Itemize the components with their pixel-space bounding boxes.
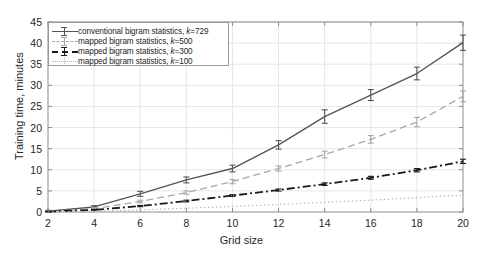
y-tick-label: 5 — [14, 185, 42, 197]
legend: conventional bigram statistics, k=729map… — [48, 22, 229, 66]
y-tick-label: 15 — [14, 143, 42, 155]
y-tick-label: 30 — [14, 79, 42, 91]
legend-line — [52, 31, 78, 32]
y-tick-label: 0 — [14, 206, 42, 218]
x-tick-label: 16 — [365, 217, 377, 229]
legend-label: conventional bigram statistics, k=729 — [78, 27, 208, 36]
legend-error-cap — [61, 27, 67, 28]
legend-line — [52, 51, 78, 53]
legend-line-sample — [52, 56, 78, 67]
y-tick-label: 20 — [14, 122, 42, 134]
legend-error-cap — [61, 37, 67, 38]
legend-error-cap — [61, 47, 67, 48]
x-tick-label: 4 — [91, 217, 97, 229]
x-tick-label: 6 — [137, 217, 143, 229]
legend-label: mapped bigram statistics, k=500 — [78, 37, 193, 46]
x-tick-label: 20 — [457, 217, 469, 229]
y-tick-label: 35 — [14, 58, 42, 70]
y-tick-label: 25 — [14, 100, 42, 112]
y-tick-label: 40 — [14, 37, 42, 49]
legend-line — [52, 61, 78, 62]
legend-label: mapped bigram statistics, k=300 — [78, 47, 193, 56]
x-tick-label: 10 — [227, 217, 239, 229]
legend-item[interactable]: mapped bigram statistics, k=100 — [49, 56, 230, 67]
x-tick-label: 8 — [183, 217, 189, 229]
x-tick-label: 18 — [411, 217, 423, 229]
x-tick-label: 14 — [319, 217, 331, 229]
x-axis-label: Grid size — [0, 234, 483, 246]
y-tick-label: 45 — [14, 16, 42, 28]
x-tick-label: 12 — [273, 217, 285, 229]
y-tick-label: 10 — [14, 164, 42, 176]
x-tick-label: 2 — [45, 217, 51, 229]
chart-screenshot: Training time, minutes Grid size 0510152… — [0, 0, 483, 257]
legend-error-bar — [64, 57, 65, 66]
error-bar — [91, 209, 97, 210]
legend-line — [52, 41, 78, 42]
legend-label: mapped bigram statistics, k=100 — [78, 57, 193, 66]
